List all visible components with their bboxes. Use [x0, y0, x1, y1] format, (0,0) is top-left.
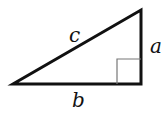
triangle — [13, 10, 141, 84]
label-a: a — [150, 34, 162, 58]
right-angle-marker — [117, 59, 141, 84]
label-c: c — [69, 23, 80, 47]
right-triangle-diagram: c a b — [0, 0, 168, 117]
label-b: b — [72, 88, 85, 112]
